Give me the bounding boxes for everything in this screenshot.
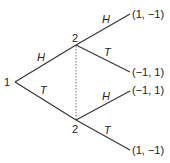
action-upper-T: T [104, 46, 112, 58]
payoff-HH: (1, −1) [132, 8, 164, 20]
root-player-label: 1 [4, 76, 10, 88]
payoff-HT: (−1, 1) [132, 66, 164, 78]
edge-p1-H [15, 45, 76, 82]
action-lower-T: T [104, 124, 112, 136]
action-p1-T: T [40, 84, 48, 96]
action-lower-H: H [102, 90, 110, 102]
upper-player2-label: 2 [72, 32, 78, 44]
lower-player2-label: 2 [72, 123, 78, 135]
edge-upper-T [76, 45, 130, 72]
action-p1-H: H [37, 51, 45, 63]
action-upper-H: H [102, 13, 110, 25]
game-tree: 1 2 2 H T H T H T (1, −1) (−1, 1) (−1, 1… [0, 0, 170, 163]
payoff-TH: (−1, 1) [132, 84, 164, 96]
payoff-TT: (1, −1) [132, 144, 164, 156]
edge-lower-T [76, 120, 130, 150]
